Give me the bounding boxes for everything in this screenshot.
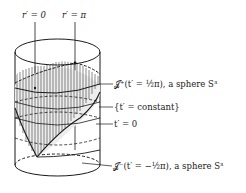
label-r-pi: r′ = π	[62, 11, 86, 20]
minkowski-region	[15, 60, 100, 157]
annotation-t-zero: t′ = 0	[114, 120, 137, 129]
annotation-scri-plus: 𝒥⁺(t′ = ½π), a sphere S³	[114, 80, 217, 89]
annotation-t-constant: {t′ = constant}	[114, 103, 180, 112]
annotation-scri-minus: 𝒥⁻(t′ = −½π), a sphere S³	[113, 162, 223, 171]
label-r-zero: r′ = 0	[22, 11, 46, 20]
